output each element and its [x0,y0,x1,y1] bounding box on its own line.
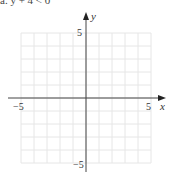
y-tick-5: 5 [77,27,82,38]
x-tick-neg5: −5 [13,101,24,112]
coordinate-plane: −5 5 x 5 −5 y [0,0,172,177]
y-axis-arrow-icon [83,12,89,20]
x-axis-label: x [159,100,165,112]
y-axis-label: y [90,10,96,22]
x-tick-5: 5 [146,101,151,112]
y-tick-neg5: −5 [73,159,84,170]
